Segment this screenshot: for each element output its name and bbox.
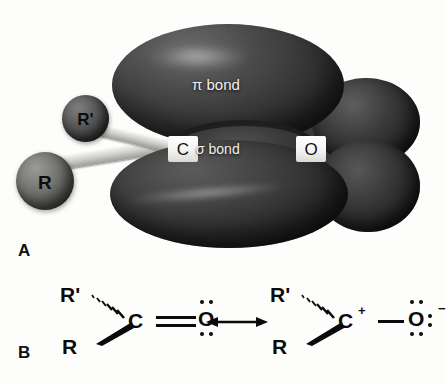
- atom-label-oxygen: O: [304, 141, 317, 158]
- substituent-sphere-r-prime: R': [62, 95, 109, 142]
- oxygen-label-right: O: [408, 308, 424, 329]
- lone-pair-dot: [428, 323, 432, 327]
- substituent-label-r: R: [38, 173, 52, 192]
- r-prime-label-left: R': [60, 284, 80, 305]
- pi-lobe-highlight-upper: [150, 44, 246, 70]
- lone-pair-dot: [419, 300, 423, 304]
- double-bond-line-lower-left: [156, 324, 196, 327]
- carbon-positive-charge: +: [358, 304, 366, 317]
- atom-label-carbon: C: [177, 141, 189, 158]
- substituent-sphere-r: R: [16, 152, 74, 210]
- resonance-arrow-glyph: ↔: [0, 270, 1, 271]
- lone-pair-dot: [209, 332, 213, 336]
- r-label-left: R: [62, 336, 77, 357]
- pi-bond-label: π bond: [192, 77, 240, 92]
- double-bond-line-upper-left: [156, 316, 196, 319]
- single-bond-line-right: [378, 320, 404, 323]
- oxygen-lone-pair-bottom-left: [200, 332, 213, 336]
- oxygen-lone-pair-bottom-right: [410, 332, 423, 336]
- panel-letter-a: A: [18, 242, 30, 259]
- sigma-bond-label: σ bond: [196, 142, 240, 156]
- lone-pair-dot: [200, 300, 204, 304]
- atom-patch-oxygen: O: [296, 136, 326, 162]
- panel-a-orbital-model: R' R C O π bond σ bond A: [0, 0, 429, 270]
- r-prime-label-right: R': [270, 284, 290, 305]
- atom-patch-carbon: C: [168, 136, 198, 162]
- lone-pair-dot: [200, 332, 204, 336]
- lone-pair-dot: [419, 332, 423, 336]
- resonance-structure-neutral: R' R C O: [52, 270, 212, 385]
- resonance-double-headed-arrow: [206, 314, 268, 330]
- r-label-right: R: [272, 336, 287, 357]
- substituent-label-r-prime: R': [77, 111, 94, 128]
- lone-pair-dot: [410, 332, 414, 336]
- lone-pair-dot: [209, 300, 213, 304]
- panel-letter-b: B: [18, 344, 30, 361]
- lone-pair-dot: [410, 300, 414, 304]
- carbon-label-left: C: [128, 310, 143, 331]
- lone-pair-dot: [428, 314, 432, 318]
- oxygen-negative-charge: −: [438, 302, 446, 315]
- panel-b-resonance-structures: R' R C O: [0, 270, 429, 385]
- oxygen-lone-pair-top-left: [200, 300, 213, 304]
- oxygen-lone-pair-top-right: [410, 300, 423, 304]
- carbon-label-right: C: [338, 310, 353, 331]
- oxygen-lone-pair-right-side: [428, 314, 432, 327]
- resonance-structure-charge-separated: R' R C + O: [262, 270, 432, 385]
